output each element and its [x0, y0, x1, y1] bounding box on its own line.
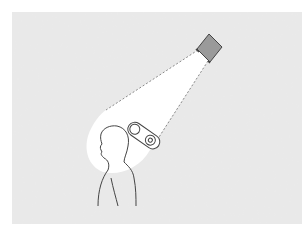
diagram-canvas	[0, 0, 302, 231]
